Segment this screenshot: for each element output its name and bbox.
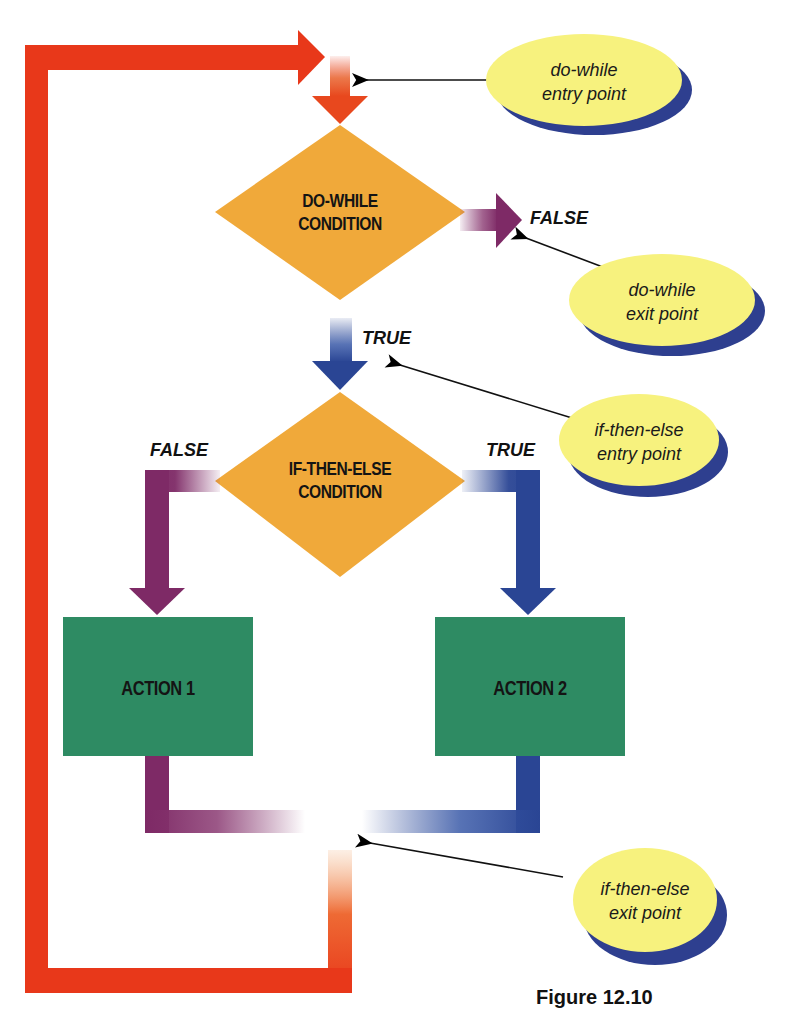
do-while-condition-label: DO-WHILE CONDITION bbox=[270, 190, 409, 236]
figure-caption: Figure 12.10 bbox=[536, 986, 653, 1009]
if-label-line1: IF-THEN-ELSE bbox=[262, 458, 418, 481]
do-while-entry-arrow bbox=[312, 56, 368, 124]
loop-arrow-head-icon bbox=[298, 30, 325, 85]
callout-line: do-while bbox=[582, 278, 742, 302]
if-true-label: TRUE bbox=[486, 440, 535, 461]
do-while-label-line1: DO-WHILE bbox=[270, 190, 409, 213]
action-2-merge-path bbox=[362, 756, 540, 833]
callout-if-entry-text: if-then-else entry point bbox=[559, 418, 719, 467]
do-while-label-line2: CONDITION bbox=[270, 213, 409, 236]
callout-do-while-exit-text: do-while exit point bbox=[582, 278, 742, 327]
pointer-if-entry bbox=[400, 365, 585, 422]
callout-line: do-while bbox=[504, 58, 664, 82]
pointer-if-exit bbox=[370, 843, 563, 877]
do-while-false-arrow bbox=[460, 193, 522, 248]
action-1-label: ACTION 1 bbox=[80, 676, 236, 700]
callout-line: exit point bbox=[582, 302, 742, 326]
action-2-label: ACTION 2 bbox=[452, 676, 608, 700]
if-false-label: FALSE bbox=[150, 440, 208, 461]
do-while-true-arrow bbox=[312, 318, 368, 390]
if-false-branch-arrow bbox=[129, 470, 220, 615]
if-then-else-condition-label: IF-THEN-ELSE CONDITION bbox=[262, 458, 418, 504]
callout-do-while-entry-text: do-while entry point bbox=[504, 58, 664, 107]
callout-line: exit point bbox=[565, 901, 725, 925]
callout-line: entry point bbox=[504, 82, 664, 106]
callout-line: entry point bbox=[559, 442, 719, 466]
do-while-false-label: FALSE bbox=[530, 208, 588, 229]
callout-if-exit-text: if-then-else exit point bbox=[565, 877, 725, 926]
if-label-line2: CONDITION bbox=[262, 481, 418, 504]
action-1-merge-path bbox=[145, 756, 305, 833]
if-true-branch-arrow bbox=[462, 470, 556, 615]
callout-line: if-then-else bbox=[565, 877, 725, 901]
callout-line: if-then-else bbox=[559, 418, 719, 442]
do-while-true-label: TRUE bbox=[362, 328, 411, 349]
